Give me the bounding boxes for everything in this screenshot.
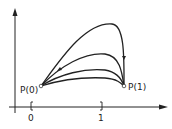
interval-end-label: 1 — [98, 113, 104, 123]
interval-end-bracket — [100, 102, 102, 110]
point-p1-label: P(1) — [128, 82, 146, 92]
curve-direction-arrow-icon — [57, 67, 62, 71]
x-axis-arrow-icon — [159, 105, 168, 110]
interval-start-label: 0 — [28, 113, 34, 123]
point-p1-marker — [122, 84, 126, 88]
curve-diagram: 0 1 P(0) P(1) — [0, 0, 172, 129]
y-axis-arrow-icon — [13, 8, 18, 16]
point-p0-label: P(0) — [20, 85, 38, 95]
point-p0-marker — [39, 84, 43, 88]
x-axis — [9, 105, 168, 110]
y-axis — [13, 8, 18, 113]
curve-1 — [41, 24, 124, 86]
curve-direction-arrow-icon — [122, 56, 126, 60]
curve-family — [41, 24, 124, 86]
interval-start-bracket — [31, 102, 33, 110]
